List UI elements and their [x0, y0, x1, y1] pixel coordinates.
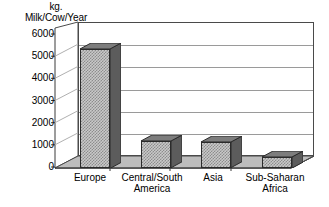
x-label-line: Central/South — [115, 172, 189, 183]
bar-1 — [80, 43, 121, 168]
x-label-line: America — [115, 183, 189, 194]
y-tick-label: 0 — [10, 162, 54, 172]
y-tick-label: 1000 — [10, 140, 54, 150]
x-label-central-south-america: Central/South America — [115, 172, 189, 194]
y-tick-label: 6000 — [10, 29, 54, 39]
x-axis-labels: Europe Central/South America Asia Sub-Sa… — [0, 172, 329, 206]
bar-front-face — [141, 141, 171, 168]
bar-3 — [201, 136, 242, 168]
y-tick-label: 3000 — [10, 96, 54, 106]
bar-2 — [141, 135, 182, 168]
x-label-sub-saharan-africa: Sub-Saharan Africa — [235, 172, 315, 194]
x-label-line: Africa — [235, 183, 315, 194]
x-label-line: Sub-Saharan — [235, 172, 315, 183]
x-label-asia: Asia — [192, 172, 234, 183]
bar-front-face — [262, 157, 292, 168]
y-tick-label: 2000 — [10, 118, 54, 128]
x-label-line: Asia — [192, 172, 234, 183]
x-label-line: Europe — [62, 172, 118, 183]
y-tick-label: 5000 — [10, 51, 54, 61]
y-tick-label: 4000 — [10, 73, 54, 83]
bar-4 — [262, 151, 303, 168]
bar-front-face — [80, 49, 110, 168]
bar-chart: kg. Milk/Cow/Year — [0, 0, 329, 207]
x-label-europe: Europe — [62, 172, 118, 183]
bar-front-face — [201, 142, 231, 168]
